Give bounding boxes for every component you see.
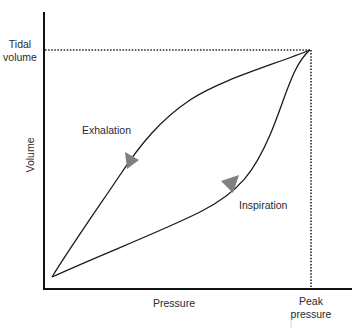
tidal-volume-label-line2: volume: [3, 51, 37, 63]
pv-loop-diagram: Tidal volume Volume Pressure Peak pressu…: [0, 0, 358, 328]
inspiration-curve: [52, 50, 310, 277]
exhalation-label: Exhalation: [82, 124, 131, 136]
inspiration-label: Inspiration: [239, 199, 288, 211]
peak-pressure-label-line2: pressure: [291, 308, 332, 320]
tidal-volume-label-line1: Tidal: [9, 38, 31, 50]
y-axis-label: Volume: [24, 137, 36, 172]
inspiration-arrow-icon: [221, 175, 239, 193]
x-axis-label: Pressure: [153, 297, 195, 309]
peak-pressure-label-line1: Peak: [299, 295, 324, 307]
exhalation-arrow-icon: [125, 152, 139, 169]
exhalation-curve: [52, 50, 310, 277]
